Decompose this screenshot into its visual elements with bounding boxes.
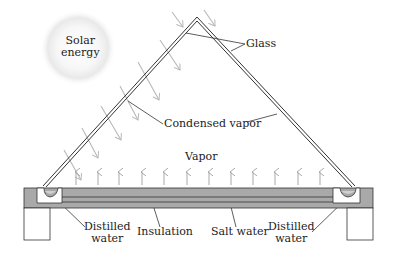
label-salt-water: Salt water bbox=[211, 226, 269, 238]
label-distilled-water-left: Distilled water bbox=[84, 221, 131, 245]
base-structure bbox=[24, 188, 373, 208]
label-distilled-water-left-line2: water bbox=[84, 233, 131, 245]
label-distilled-water-right: Distilled water bbox=[268, 221, 315, 245]
label-vapor: Vapor bbox=[185, 151, 217, 163]
label-distilled-water-right-line2: water bbox=[268, 233, 315, 245]
label-condensed-vapor: Condensed vapor bbox=[164, 118, 261, 130]
solar-still-diagram: Solar energy Glass Condensed vapor Vapor… bbox=[0, 0, 394, 259]
label-solar-energy: Solar energy bbox=[61, 35, 100, 59]
vapor-arrows bbox=[76, 172, 320, 185]
label-insulation: Insulation bbox=[137, 226, 193, 238]
label-solar-energy-line2: energy bbox=[61, 47, 100, 59]
label-glass: Glass bbox=[246, 38, 276, 50]
